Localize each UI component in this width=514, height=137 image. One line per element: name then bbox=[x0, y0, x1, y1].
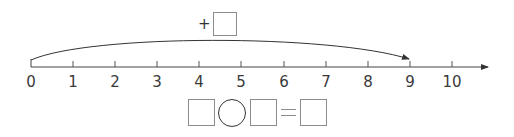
tick-label-8: 8 bbox=[363, 75, 373, 90]
tick-label-1: 1 bbox=[68, 75, 78, 90]
tick-label-3: 3 bbox=[152, 75, 162, 90]
number-line-exercise: 012345678910 + bbox=[0, 0, 514, 137]
equals-sign bbox=[281, 109, 296, 117]
jump-amount-answer-box[interactable] bbox=[213, 12, 237, 36]
equation-result-box[interactable] bbox=[300, 99, 327, 126]
equation-left-operand-box[interactable] bbox=[188, 99, 215, 126]
tick-marks bbox=[73, 61, 452, 67]
tick-label-9: 9 bbox=[405, 75, 415, 90]
tick-label-0: 0 bbox=[26, 75, 36, 90]
jump-arc-arrow bbox=[31, 40, 409, 60]
tick-label-2: 2 bbox=[110, 75, 120, 90]
equation-operator-circle[interactable] bbox=[218, 99, 246, 127]
plus-sign: + bbox=[198, 17, 211, 32]
tick-label-5: 5 bbox=[236, 75, 246, 90]
equation-right-operand-box[interactable] bbox=[250, 99, 277, 126]
tick-label-6: 6 bbox=[279, 75, 289, 90]
tick-label-10: 10 bbox=[442, 75, 461, 90]
tick-label-4: 4 bbox=[194, 75, 204, 90]
tick-label-7: 7 bbox=[321, 75, 331, 90]
